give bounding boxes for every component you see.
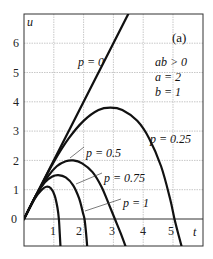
condition-a: a = 2 [155, 70, 181, 84]
leader-line [85, 199, 121, 211]
condition-b: b = 1 [155, 85, 181, 99]
grid-lines [24, 14, 203, 246]
curve-p-0-75 [24, 175, 87, 250]
label-p05: p = 0.5 [85, 146, 121, 160]
y-tick-4: 4 [13, 95, 19, 109]
x-tick-4: 4 [140, 224, 146, 238]
label-p025: p = 0.25 [149, 132, 191, 146]
x-tick-2: 2 [76, 224, 82, 238]
y-tick-3: 3 [13, 124, 19, 138]
label-p1: p = 1 [122, 196, 149, 210]
panel-label: (a) [172, 30, 186, 45]
label-p075: p = 0.75 [103, 171, 145, 185]
y-tick-5: 5 [13, 66, 19, 80]
x-tick-5: 5 [168, 224, 174, 238]
y-tick-6: 6 [13, 36, 19, 50]
chart: 0 1 2 3 4 5 6 1 2 3 4 5 u t (a) ab > 0 a… [0, 0, 213, 259]
x-tick-1: 1 [50, 224, 56, 238]
condition-ab: ab > 0 [155, 55, 187, 69]
curve-p-1 [24, 187, 61, 250]
y-tick-0: 0 [11, 212, 17, 226]
y-axis-label: u [27, 15, 33, 29]
label-p0: p = 0 [77, 55, 104, 69]
leader-line [70, 147, 84, 158]
x-tick-3: 3 [109, 224, 115, 238]
y-tick-2: 2 [13, 154, 19, 168]
x-axis-label: t [193, 225, 197, 239]
y-tick-1: 1 [13, 183, 19, 197]
